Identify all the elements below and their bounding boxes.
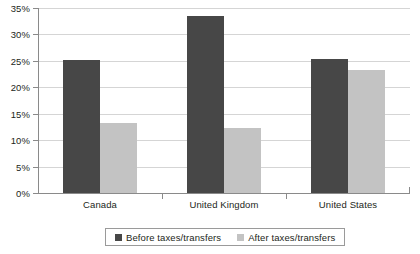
plot-area <box>38 8 410 193</box>
legend-swatch-after-icon <box>237 234 244 241</box>
legend-label-after: After taxes/transfers <box>248 232 335 243</box>
x-axis-label-united-states: United States <box>286 199 410 210</box>
y-axis-tick-label: 10% <box>0 135 30 146</box>
y-axis-tick-label: 25% <box>0 55 30 66</box>
x-axis-label-canada: Canada <box>38 199 162 210</box>
y-axis-tick <box>33 87 38 88</box>
legend-item-before[interactable]: Before taxes/transfers <box>115 232 221 243</box>
y-axis-tick <box>33 114 38 115</box>
y-axis-tick <box>33 34 38 35</box>
x-axis-label-united-kingdom: United Kingdom <box>162 199 286 210</box>
y-axis-tick <box>33 167 38 168</box>
chart-legend: Before taxes/transfers After taxes/trans… <box>105 228 345 246</box>
legend-swatch-before-icon <box>115 234 122 241</box>
y-axis-tick-label: 0% <box>0 188 30 199</box>
bar-united-states-before[interactable] <box>311 59 348 193</box>
y-axis-tick-label: 30% <box>0 29 30 40</box>
y-axis-tick-label: 15% <box>0 108 30 119</box>
y-axis-line <box>38 8 39 194</box>
bar-united-kingdom-after[interactable] <box>224 128 261 193</box>
y-axis-tick-label: 35% <box>0 3 30 14</box>
x-axis-right-cap <box>409 187 410 194</box>
gridline <box>38 8 410 9</box>
bar-canada-after[interactable] <box>100 123 137 193</box>
gridline <box>38 34 410 35</box>
bar-united-states-after[interactable] <box>348 70 385 193</box>
y-axis-tick-label: 20% <box>0 82 30 93</box>
y-axis-tick <box>33 140 38 141</box>
legend-label-before: Before taxes/transfers <box>126 232 221 243</box>
bar-canada-before[interactable] <box>63 60 100 193</box>
bar-chart: 0%5%10%15%20%25%30%35% CanadaUnited King… <box>0 0 420 254</box>
y-axis-tick-label: 5% <box>0 161 30 172</box>
y-axis-tick <box>33 8 38 9</box>
y-axis-tick <box>33 193 38 194</box>
y-axis-tick <box>33 61 38 62</box>
x-axis-line <box>38 193 410 194</box>
bar-united-kingdom-before[interactable] <box>187 16 224 193</box>
legend-item-after[interactable]: After taxes/transfers <box>237 232 335 243</box>
